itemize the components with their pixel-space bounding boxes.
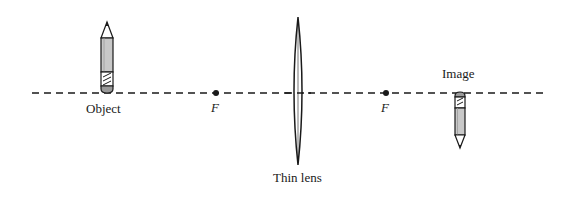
- focal-label-left: F: [211, 100, 219, 116]
- focal-point-left: [213, 90, 219, 96]
- lens-label: Thin lens: [273, 170, 322, 186]
- image-pencil-icon: [455, 92, 465, 148]
- focal-label-right: F: [381, 100, 389, 116]
- image-label: Image: [442, 66, 474, 82]
- object-pencil-icon: [101, 22, 113, 93]
- thin-lens-icon: [285, 17, 311, 165]
- object-label: Object: [86, 101, 121, 117]
- focal-point-right: [383, 90, 389, 96]
